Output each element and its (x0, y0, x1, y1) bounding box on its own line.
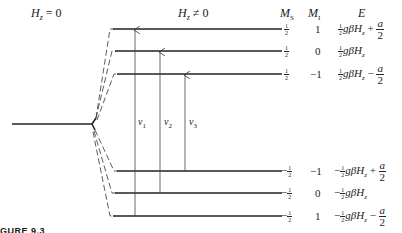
ms-value: −12 (281, 210, 292, 223)
energy-expression: −12gβHz + a2 (334, 160, 386, 183)
energy-expression: −12gβHz (334, 187, 367, 201)
header-zero-field: Hz = 0 (31, 7, 62, 22)
mi-value: −1 (310, 166, 322, 177)
mi-value: 0 (315, 46, 321, 57)
energy-expression: 12gβHz + a2 (338, 18, 384, 41)
header-mi: MI (308, 7, 320, 22)
header-ms: MS (280, 7, 294, 22)
transition-label-nu1: ν1 (138, 117, 146, 130)
ms-value: 12 (284, 45, 289, 58)
transition-label-nu2: ν2 (164, 117, 172, 130)
energy-expression: −12gβHz − a2 (334, 205, 386, 228)
mi-value: 1 (315, 211, 321, 222)
energy-expression: 12gβHz − a2 (338, 63, 384, 86)
ms-value: 12 (284, 23, 289, 36)
ms-value: 12 (284, 68, 289, 81)
ms-value: −12 (281, 165, 292, 178)
mi-value: 1 (315, 24, 321, 35)
transition-label-nu3: ν3 (189, 117, 197, 130)
energy-expression: 12gβHz (338, 45, 365, 59)
mi-value: 0 (315, 188, 321, 199)
correlation-lines (93, 29, 118, 216)
ms-value: −12 (281, 187, 292, 200)
figure-caption: GURE 9.3 (0, 226, 45, 233)
split-fork (92, 118, 96, 130)
mi-value: −1 (310, 69, 322, 80)
header-nonzero-field: Hz ≠ 0 (178, 7, 208, 22)
